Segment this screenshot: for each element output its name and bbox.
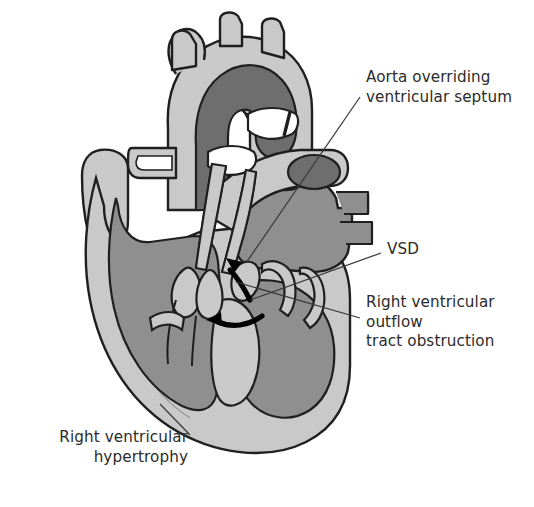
label-vsd: VSD: [387, 240, 419, 260]
left-common-carotid-artery: [220, 13, 242, 46]
tetralogy-of-fallot-figure: Aorta overriding ventricular septum VSD …: [0, 0, 534, 507]
label-right-ventricular-outflow-tract-obstruction: Right ventricular outflow tract obstruct…: [366, 293, 495, 352]
label-right-ventricular-hypertrophy: Right ventricular hypertrophy: [8, 428, 188, 467]
aortic-valve-window: [248, 108, 298, 139]
label-aorta-overriding-ventricular-septum: Aorta overriding ventricular septum: [366, 68, 512, 107]
descending-aorta: [128, 148, 176, 178]
pulmonary-artery-lumen: [288, 155, 340, 189]
left-subclavian-artery: [262, 19, 284, 58]
